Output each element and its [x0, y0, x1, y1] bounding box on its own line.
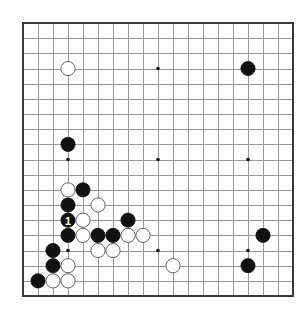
- white-stone[interactable]: [46, 274, 60, 288]
- black-stone[interactable]: [76, 183, 90, 197]
- black-stone[interactable]: [61, 228, 75, 242]
- move-labels: 1: [65, 215, 71, 227]
- move-number-label: 1: [65, 215, 71, 227]
- star-point: [246, 158, 250, 162]
- black-stone[interactable]: [121, 213, 135, 227]
- white-stone[interactable]: [61, 259, 75, 273]
- white-stone[interactable]: [91, 198, 105, 212]
- white-stone[interactable]: [61, 274, 75, 288]
- star-point: [156, 67, 160, 71]
- black-stone[interactable]: [46, 243, 60, 257]
- white-stone[interactable]: [136, 228, 150, 242]
- stones-layer: [31, 61, 270, 288]
- white-stone[interactable]: [61, 61, 75, 75]
- star-point: [66, 158, 70, 162]
- white-stone[interactable]: [106, 243, 120, 257]
- white-stone[interactable]: [91, 243, 105, 257]
- black-stone[interactable]: [61, 198, 75, 212]
- white-stone[interactable]: [121, 228, 135, 242]
- black-stone[interactable]: [91, 228, 105, 242]
- star-point: [246, 249, 250, 253]
- white-stone[interactable]: [76, 213, 90, 227]
- black-stone[interactable]: [61, 137, 75, 151]
- star-point: [156, 158, 160, 162]
- star-point: [66, 249, 70, 253]
- black-stone[interactable]: [241, 61, 255, 75]
- black-stone[interactable]: [106, 228, 120, 242]
- black-stone[interactable]: [256, 228, 270, 242]
- white-stone[interactable]: [76, 228, 90, 242]
- go-board[interactable]: 1: [0, 0, 302, 316]
- star-point: [156, 249, 160, 253]
- white-stone[interactable]: [166, 259, 180, 273]
- black-stone[interactable]: [31, 274, 45, 288]
- black-stone[interactable]: [46, 259, 60, 273]
- black-stone[interactable]: [241, 259, 255, 273]
- white-stone[interactable]: [61, 183, 75, 197]
